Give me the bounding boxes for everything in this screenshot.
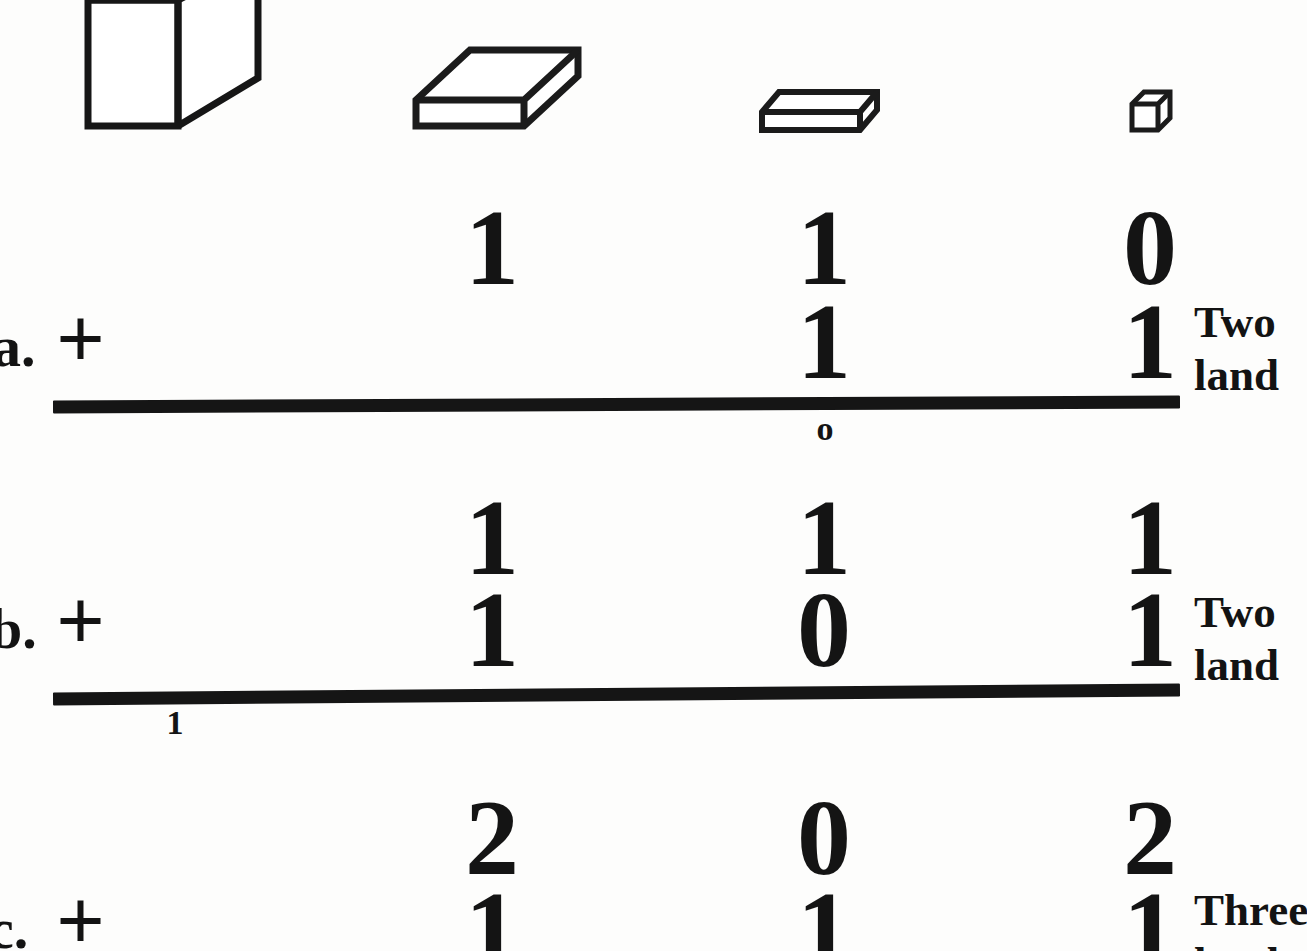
note-c-line1: Three (1194, 884, 1307, 937)
note-c-line2: land (1194, 937, 1307, 951)
problem-letter-b: b. (0, 600, 37, 658)
worksheet-page: a. + 1 1 0 1 1 o Two land b. + 1 1 1 1 0… (0, 0, 1307, 951)
note-a-line1: Two (1194, 296, 1279, 349)
plus-operator-b: + (56, 578, 105, 664)
note-b: Two land (1194, 586, 1279, 692)
note-a: Two land (1194, 296, 1279, 402)
unit-cube-block-icon (1128, 88, 1176, 136)
problem-letter-c: c. (0, 900, 28, 951)
plus-operator-a: + (56, 296, 105, 382)
note-b-line1: Two (1194, 586, 1279, 639)
digit-c-bottom-hundreds: 1 (447, 876, 537, 951)
note-a-line2: land (1194, 349, 1279, 402)
flat-block-icon (408, 38, 586, 136)
digit-c-bottom-ones: 1 (1105, 876, 1195, 951)
digit-a-bottom-ones: 1 (1105, 288, 1195, 396)
sum-line-a (53, 396, 1180, 414)
digit-a-bottom-tens: 1 (779, 288, 869, 396)
note-b-line2: land (1194, 639, 1279, 692)
large-cube-block-icon (78, 0, 268, 140)
carry-mark-a: o (805, 412, 845, 446)
digit-c-bottom-tens: 1 (779, 876, 869, 951)
carry-mark-b: 1 (155, 706, 195, 740)
note-c: Three land (1194, 884, 1307, 951)
digit-b-bottom-hundreds: 1 (447, 576, 537, 684)
base-ten-blocks-legend (0, 0, 1307, 175)
long-rod-block-icon (757, 84, 885, 138)
digit-b-bottom-tens: 0 (779, 576, 869, 684)
sum-line-b (53, 684, 1180, 706)
plus-operator-c: + (56, 878, 105, 951)
digit-b-bottom-ones: 1 (1105, 576, 1195, 684)
problem-letter-a: a. (0, 318, 36, 376)
digit-a-top-hundreds: 1 (447, 194, 537, 302)
